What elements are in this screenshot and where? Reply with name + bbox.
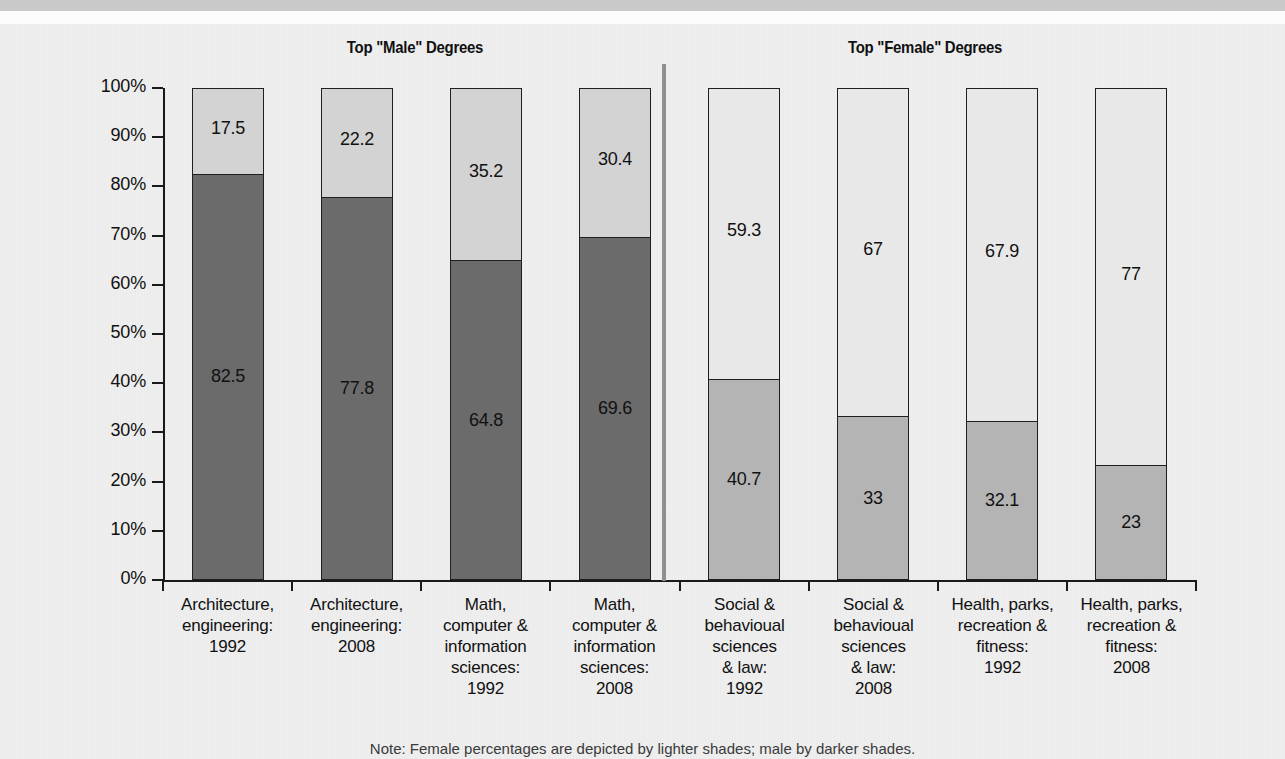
bar-segment-female-value: 59.3 bbox=[727, 220, 761, 241]
category-label-line: 2008 bbox=[1067, 657, 1196, 678]
category-label-line: Social & bbox=[680, 594, 809, 615]
bar-segment-male-value: 33 bbox=[863, 488, 882, 509]
bar-segment-female[interactable]: 22.2 bbox=[322, 89, 392, 198]
category-label: Health, parks,recreation &fitness:2008 bbox=[1067, 594, 1196, 678]
x-tick-mark bbox=[679, 580, 681, 591]
stacked-bar[interactable]: 7723 bbox=[1095, 88, 1167, 580]
panel-title-female: Top "Female" Degrees bbox=[780, 38, 1070, 58]
bar-segment-male[interactable]: 64.8 bbox=[451, 261, 521, 579]
bar-segment-male[interactable]: 69.6 bbox=[580, 238, 650, 579]
category-label-line: engineering: bbox=[163, 615, 292, 636]
stacked-bar[interactable]: 67.932.1 bbox=[966, 88, 1038, 580]
stacked-bar[interactable]: 35.264.8 bbox=[450, 88, 522, 580]
y-tick-label-text: 0% bbox=[86, 568, 146, 589]
bar-segment-female-value: 22.2 bbox=[340, 129, 374, 150]
category-label-line: Architecture, bbox=[292, 594, 421, 615]
bar-segment-female[interactable]: 30.4 bbox=[580, 89, 650, 238]
x-tick-mark bbox=[1066, 580, 1068, 591]
y-tick-label-text: 100% bbox=[86, 76, 146, 97]
category-label-line: sciences bbox=[809, 636, 938, 657]
y-tick-label-text: 60% bbox=[86, 273, 146, 294]
category-label: Math,computer &informationsciences:2008 bbox=[550, 594, 679, 699]
y-tick-mark bbox=[152, 382, 163, 384]
bar-segment-female[interactable]: 59.3 bbox=[709, 89, 779, 380]
y-tick-label-text: 50% bbox=[86, 322, 146, 343]
category-label-line: recreation & bbox=[938, 615, 1067, 636]
y-tick-label-text: 90% bbox=[86, 125, 146, 146]
category-label-line: 1992 bbox=[421, 678, 550, 699]
stacked-bar[interactable]: 59.340.7 bbox=[708, 88, 780, 580]
y-tick-mark bbox=[152, 136, 163, 138]
bar-segment-female[interactable]: 67.9 bbox=[967, 89, 1037, 422]
x-tick-mark bbox=[549, 580, 551, 591]
y-tick-label-text: 30% bbox=[86, 420, 146, 441]
stacked-bar[interactable]: 30.469.6 bbox=[579, 88, 651, 580]
category-label: Math,computer &informationsciences:1992 bbox=[421, 594, 550, 699]
x-tick-mark bbox=[291, 580, 293, 591]
bar-segment-female-value: 67 bbox=[863, 239, 882, 260]
category-label-line: fitness: bbox=[938, 636, 1067, 657]
category-label-line: Health, parks, bbox=[938, 594, 1067, 615]
stacked-bar[interactable]: 22.277.8 bbox=[321, 88, 393, 580]
bar-segment-male[interactable]: 32.1 bbox=[967, 422, 1037, 579]
category-label-line: behavioual bbox=[680, 615, 809, 636]
y-tick-mark bbox=[152, 530, 163, 532]
x-tick-mark bbox=[420, 580, 422, 591]
y-tick-label-text: 10% bbox=[86, 519, 146, 540]
y-tick-mark bbox=[152, 235, 163, 237]
x-tick-mark bbox=[1195, 580, 1197, 591]
category-label-line: 2008 bbox=[292, 636, 421, 657]
category-label-line: Math, bbox=[550, 594, 679, 615]
x-tick-mark bbox=[162, 580, 164, 591]
bar-segment-male[interactable]: 82.5 bbox=[193, 175, 263, 579]
stacked-bar[interactable]: 6733 bbox=[837, 88, 909, 580]
bar-segment-female[interactable]: 17.5 bbox=[193, 89, 263, 175]
y-tick-mark bbox=[152, 284, 163, 286]
category-label: Social &behavioualsciences& law:1992 bbox=[680, 594, 809, 699]
category-label-line: sciences bbox=[680, 636, 809, 657]
bar-segment-male-value: 82.5 bbox=[211, 366, 245, 387]
bar-segment-male[interactable]: 40.7 bbox=[709, 380, 779, 579]
panel-divider bbox=[662, 64, 666, 581]
category-label-line: & law: bbox=[680, 657, 809, 678]
y-tick-mark bbox=[152, 481, 163, 483]
stacked-bar[interactable]: 17.582.5 bbox=[192, 88, 264, 580]
bar-segment-female-value: 30.4 bbox=[598, 149, 632, 170]
y-tick-mark bbox=[152, 87, 163, 89]
panel-title-male: Top "Male" Degrees bbox=[270, 38, 560, 58]
bar-segment-female-value: 17.5 bbox=[211, 118, 245, 139]
category-label-line: sciences: bbox=[550, 657, 679, 678]
category-label-line: fitness: bbox=[1067, 636, 1196, 657]
category-label-line: computer & bbox=[550, 615, 679, 636]
category-label-line: Social & bbox=[809, 594, 938, 615]
y-tick-label-text: 80% bbox=[86, 174, 146, 195]
bar-segment-female[interactable]: 77 bbox=[1096, 89, 1166, 466]
category-label-line: Health, parks, bbox=[1067, 594, 1196, 615]
category-label: Architecture,engineering:1992 bbox=[163, 594, 292, 657]
y-tick-label-text: 40% bbox=[86, 371, 146, 392]
bar-segment-female[interactable]: 67 bbox=[838, 89, 908, 417]
category-label: Social &behavioualsciences& law:2008 bbox=[809, 594, 938, 699]
category-label-line: behavioual bbox=[809, 615, 938, 636]
chart-note: Note: Female percentages are depicted by… bbox=[0, 740, 1285, 757]
category-label-line: Architecture, bbox=[163, 594, 292, 615]
y-axis-line bbox=[163, 88, 165, 581]
bar-segment-male-value: 23 bbox=[1121, 512, 1140, 533]
category-label-line: 2008 bbox=[809, 678, 938, 699]
category-label-line: 1992 bbox=[680, 678, 809, 699]
bar-segment-male[interactable]: 33 bbox=[838, 417, 908, 579]
stacked-bar-chart: Top "Male" Degrees Top "Female" Degrees … bbox=[0, 0, 1285, 759]
category-label-line: 1992 bbox=[938, 657, 1067, 678]
category-label-line: information bbox=[550, 636, 679, 657]
bar-segment-male[interactable]: 77.8 bbox=[322, 198, 392, 579]
bar-segment-male-value: 64.8 bbox=[469, 410, 503, 431]
category-label-line: sciences: bbox=[421, 657, 550, 678]
category-label-line: 1992 bbox=[163, 636, 292, 657]
x-tick-mark bbox=[808, 580, 810, 591]
bar-segment-male[interactable]: 23 bbox=[1096, 466, 1166, 579]
bar-segment-male-value: 32.1 bbox=[985, 490, 1019, 511]
category-label-line: information bbox=[421, 636, 550, 657]
bar-segment-female[interactable]: 35.2 bbox=[451, 89, 521, 261]
bar-segment-female-value: 77 bbox=[1121, 264, 1140, 285]
category-label-line: engineering: bbox=[292, 615, 421, 636]
